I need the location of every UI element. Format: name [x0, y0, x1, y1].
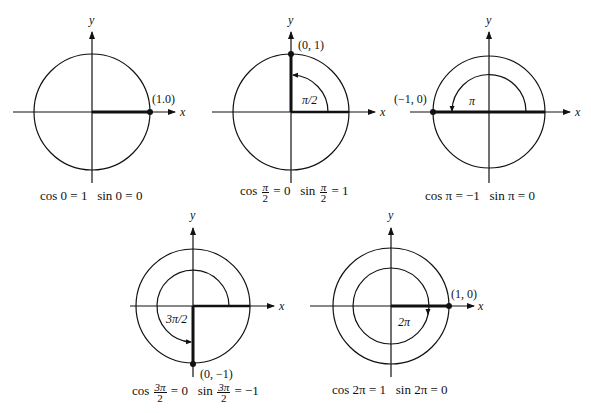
figure-angle-0: (1.0) x y [13, 13, 186, 183]
x-axis-label: x [278, 299, 285, 313]
sin-prefix: sin [300, 183, 315, 198]
cos-fraction: π2 [262, 182, 270, 203]
caption-angle-pi-over-2: cos π2 = 0 sin π2 = 1 [240, 182, 348, 203]
cos-equation: cos 2π = 1 [332, 382, 386, 397]
sin-equation: sin 2π = 0 [396, 382, 448, 397]
cos-rhs: = 0 [273, 183, 290, 198]
caption-angle-pi: cos π = −1 sin π = 0 [425, 188, 535, 204]
sin-rhs: = 1 [331, 183, 348, 198]
caption-angle-0: cos 0 = 1 sin 0 = 0 [40, 188, 142, 204]
y-axis-label: y [189, 208, 196, 222]
point-marker [147, 109, 153, 115]
caption-angle-2pi: cos 2π = 1 sin 2π = 0 [332, 382, 448, 398]
y-axis-label: y [387, 208, 394, 222]
angle-label: 2π [398, 315, 411, 329]
sin-equation: sin 0 = 0 [97, 188, 142, 203]
angle-label: π [469, 94, 476, 108]
x-axis-label: x [179, 105, 186, 119]
figure-angle-pi: (−1, 0) π x y [394, 13, 581, 183]
angle-label: π/2 [302, 93, 317, 107]
figure-angle-3pi-over-2: (0, −1) 3π/2 x y [130, 208, 285, 381]
x-axis-label: x [477, 299, 484, 313]
sin-fraction: π2 [320, 182, 328, 203]
sin-prefix: sin [198, 383, 213, 398]
cos-fraction: 3π2 [154, 382, 167, 403]
sin-equation: sin π = 0 [490, 188, 535, 203]
point-marker [288, 51, 294, 57]
cos-equation: cos π = −1 [425, 188, 480, 203]
point-label: (−1, 0) [394, 92, 427, 106]
sin-fraction: 3π2 [217, 382, 230, 403]
point-label: (0, 1) [298, 38, 324, 52]
point-label: (1, 0) [451, 287, 477, 301]
y-axis-label: y [287, 13, 294, 27]
cos-equation: cos 0 = 1 [40, 188, 87, 203]
cos-prefix: cos [240, 183, 257, 198]
point-marker [430, 109, 436, 115]
figure-angle-2pi: (1, 0) 2π x y [310, 208, 484, 377]
point-marker [446, 303, 452, 309]
point-label: (1.0) [152, 92, 175, 106]
figure-angle-pi-over-2: (0, 1) π/2 x y [212, 13, 386, 183]
point-marker [190, 361, 196, 367]
unit-circle-diagrams: (1.0) x y (0, 1) π/2 x y (−1, 0) π x y [0, 0, 591, 413]
cos-rhs: = 0 [171, 383, 188, 398]
y-axis-label: y [485, 13, 492, 27]
caption-angle-3pi-over-2: cos 3π2 = 0 sin 3π2 = −1 [132, 382, 259, 403]
x-axis-label: x [574, 105, 581, 119]
y-axis-label: y [88, 13, 95, 27]
point-label: (0, −1) [200, 367, 233, 381]
x-axis-label: x [379, 105, 386, 119]
angle-label: 3π/2 [165, 312, 187, 326]
cos-prefix: cos [132, 383, 149, 398]
sin-rhs: = −1 [234, 383, 258, 398]
